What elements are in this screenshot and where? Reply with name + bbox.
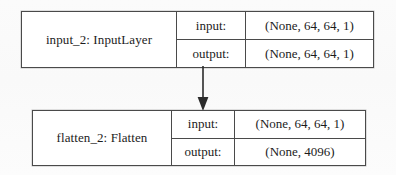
node-flatten-2-input-label: input: — [172, 111, 235, 138]
arrow-down-icon — [192, 66, 214, 112]
node-flatten-2-output-label: output: — [172, 139, 235, 166]
node-input-2-output-shape: (None, 64, 64, 1) — [246, 40, 373, 67]
node-flatten-2-output-shape: (None, 4096) — [235, 139, 365, 166]
node-flatten-2-name: flatten_2: Flatten — [33, 111, 172, 165]
node-flatten-2-io-table: input: (None, 64, 64, 1) output: (None, … — [172, 111, 365, 165]
node-input-2-output-label: output: — [177, 40, 246, 67]
node-input-2-input-row: input: (None, 64, 64, 1) — [177, 12, 373, 40]
node-flatten-2-input-shape: (None, 64, 64, 1) — [235, 111, 365, 138]
node-input-2-input-shape: (None, 64, 64, 1) — [246, 12, 373, 39]
node-flatten-2-output-row: output: (None, 4096) — [172, 139, 365, 166]
node-flatten-2[interactable]: flatten_2: Flatten input: (None, 64, 64,… — [32, 110, 366, 166]
node-input-2-output-row: output: (None, 64, 64, 1) — [177, 40, 373, 67]
node-input-2[interactable]: input_2: InputLayer input: (None, 64, 64… — [21, 11, 374, 68]
node-input-2-name: input_2: InputLayer — [22, 12, 177, 67]
node-input-2-input-label: input: — [177, 12, 246, 39]
node-input-2-io-table: input: (None, 64, 64, 1) output: (None, … — [177, 12, 373, 67]
node-flatten-2-input-row: input: (None, 64, 64, 1) — [172, 111, 365, 139]
diagram-canvas: input_2: InputLayer input: (None, 64, 64… — [0, 0, 396, 175]
